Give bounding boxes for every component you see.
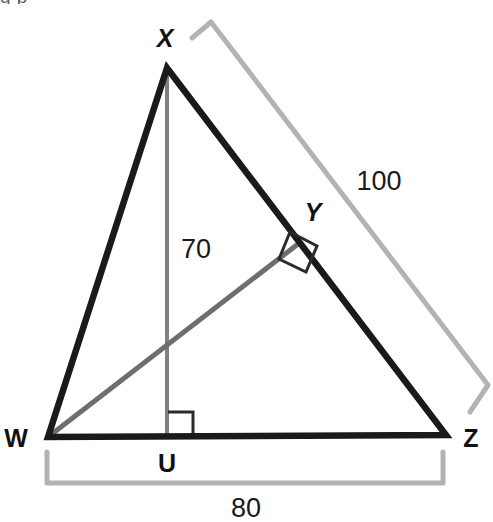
measure-label-100: 100: [356, 168, 401, 195]
bracket-80: [47, 452, 443, 483]
vertex-label-U: U: [158, 451, 176, 476]
figure-canvas: [0, 0, 493, 522]
vertex-label-W: W: [4, 426, 28, 451]
altitude-WY: [48, 244, 298, 437]
vertex-label-Z: Z: [463, 426, 478, 451]
bracket-100: [192, 22, 488, 412]
vertex-label-Y: Y: [305, 200, 322, 225]
measure-label-70: 70: [181, 236, 211, 263]
right-angle-at-Y: [279, 232, 317, 272]
vertex-label-X: X: [157, 26, 174, 51]
measure-label-80: 80: [231, 495, 261, 522]
geometry-figure: g p X W Z Y: [0, 0, 493, 522]
